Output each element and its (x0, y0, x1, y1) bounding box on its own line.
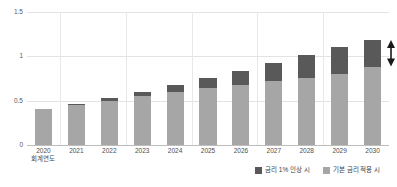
legend-item[interactable]: 금리 1% 인상 시 (255, 167, 310, 174)
x-axis-tick-year: 2029 (332, 147, 346, 154)
bar-segment (134, 92, 151, 96)
x-axis-tick-year: 2022 (102, 147, 116, 154)
x-axis-tick-year: 2024 (168, 147, 182, 154)
x-axis-tick-year: 2027 (267, 147, 281, 154)
legend-swatch-icon (323, 167, 330, 174)
y-axis-tick-label: 0.5 (14, 97, 23, 104)
x-axis-tick-label: 2024 (168, 147, 182, 155)
chart-legend: 금리 1% 인상 시기본 금리 적용 시 (255, 167, 380, 174)
bar-2028 (298, 55, 315, 145)
x-axis-tick-label: 2029 (332, 147, 346, 155)
bar-2030 (364, 40, 381, 145)
bar-segment (265, 63, 282, 82)
bar-segment (199, 88, 216, 145)
bar-2021 (68, 104, 85, 145)
x-axis-tick-label: 2026 (234, 147, 248, 155)
bar-segment (232, 85, 249, 145)
x-axis-tick-label: 2023 (135, 147, 149, 155)
bar-segment (298, 55, 315, 78)
y-axis-tick-label: 1.5 (14, 9, 23, 16)
bars-layer (27, 12, 389, 145)
bar-segment (134, 96, 151, 145)
bar-segment (68, 104, 85, 105)
x-axis-title: 회계연도 (31, 155, 55, 163)
bar-2020 (35, 109, 52, 145)
stacked-column-chart: 1.510.50 2020회계연도20212022202320242025202… (0, 0, 397, 187)
legend-label: 기본 금리 적용 시 (333, 167, 380, 174)
x-axis-tick-year: 2023 (135, 147, 149, 154)
legend-item[interactable]: 기본 금리 적용 시 (323, 167, 380, 174)
x-axis-tick-label: 2030 (365, 147, 379, 155)
x-axis-tick-label: 2020회계연도 (31, 147, 55, 163)
bar-segment (101, 101, 118, 145)
bar-2025 (199, 78, 216, 145)
x-axis-tick-year: 2020 (36, 147, 50, 154)
bar-2029 (331, 47, 348, 145)
gridline-horizontal (27, 145, 389, 146)
x-axis-tick-label: 2027 (267, 147, 281, 155)
x-axis-tick-label: 2025 (201, 147, 215, 155)
legend-label: 금리 1% 인상 시 (265, 167, 310, 174)
bar-segment (331, 47, 348, 74)
bar-segment (331, 74, 348, 145)
y-axis-tick-label: 1 (19, 53, 23, 60)
x-axis-tick-year: 2025 (201, 147, 215, 154)
range-arrow-annotation (384, 40, 397, 67)
x-axis-tick-label: 2028 (299, 147, 313, 155)
legend-swatch-icon (255, 167, 262, 174)
bar-segment (167, 92, 184, 145)
bar-segment (68, 105, 85, 145)
x-axis-tick-year: 2030 (365, 147, 379, 154)
bar-segment (232, 71, 249, 85)
bar-2022 (101, 98, 118, 145)
x-axis-tick-year: 2026 (234, 147, 248, 154)
bar-2027 (265, 63, 282, 145)
bar-segment (101, 98, 118, 101)
bar-segment (199, 78, 216, 89)
bar-2026 (232, 71, 249, 145)
x-axis-tick-label: 2021 (69, 147, 83, 155)
bar-segment (167, 85, 184, 92)
x-axis-tick-year: 2028 (299, 147, 313, 154)
x-axis-tick-year: 2021 (69, 147, 83, 154)
bar-segment (364, 67, 381, 145)
bar-segment (35, 109, 52, 145)
bar-segment (364, 40, 381, 67)
bar-2024 (167, 85, 184, 145)
bar-segment (298, 78, 315, 145)
bar-2023 (134, 92, 151, 145)
bar-segment (265, 81, 282, 145)
x-axis-tick-label: 2022 (102, 147, 116, 155)
y-axis-tick-label: 0 (19, 142, 23, 149)
